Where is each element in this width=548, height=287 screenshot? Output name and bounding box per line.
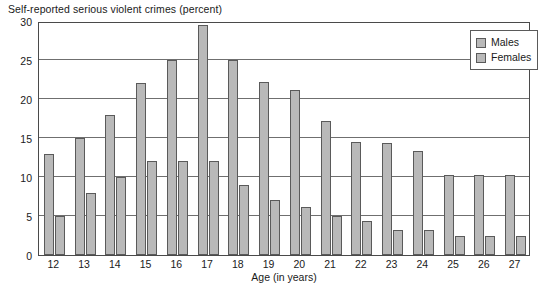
- chart-title: Self-reported serious violent crimes (pe…: [8, 3, 222, 15]
- bar-females-22: [362, 221, 372, 255]
- x-tick-label-15: 15: [131, 259, 161, 270]
- age-group-17: [198, 23, 219, 255]
- bar-females-27: [516, 236, 526, 255]
- legend-swatch-males: [476, 38, 486, 48]
- x-tick-label-18: 18: [223, 259, 253, 270]
- bar-males-22: [351, 142, 361, 255]
- age-group-12: [44, 23, 65, 255]
- legend-label-females: Females: [491, 52, 531, 63]
- x-tick-label-21: 21: [315, 259, 345, 270]
- bar-males-25: [444, 175, 454, 255]
- x-tick-label-14: 14: [100, 259, 130, 270]
- age-group-19: [259, 23, 280, 255]
- x-tick-label-20: 20: [284, 259, 314, 270]
- bar-females-23: [393, 230, 403, 255]
- y-tick-label-0: 0: [26, 251, 32, 261]
- bar-males-18: [228, 60, 238, 255]
- age-group-23: [382, 23, 403, 255]
- y-tick-label-15: 15: [20, 134, 32, 144]
- bar-females-25: [455, 236, 465, 255]
- x-tick-label-13: 13: [69, 259, 99, 270]
- bars-layer: [39, 23, 529, 255]
- bar-females-17: [209, 161, 219, 255]
- y-tick-label-10: 10: [20, 173, 32, 183]
- age-group-13: [75, 23, 96, 255]
- x-tick-label-19: 19: [254, 259, 284, 270]
- age-group-21: [321, 23, 342, 255]
- bar-females-16: [178, 161, 188, 255]
- y-tick-label-25: 25: [20, 56, 32, 66]
- bar-males-21: [321, 121, 331, 255]
- bar-males-20: [290, 90, 300, 255]
- bar-males-12: [44, 154, 54, 255]
- chart-legend: MalesFemales: [470, 30, 538, 70]
- age-group-20: [290, 23, 311, 255]
- legend-item-males: Males: [476, 35, 531, 50]
- bar-males-15: [136, 83, 146, 255]
- x-axis-title: Age (in years): [38, 271, 530, 283]
- age-group-24: [413, 23, 434, 255]
- y-tick-label-5: 5: [26, 212, 32, 222]
- age-group-18: [228, 23, 249, 255]
- bar-females-20: [301, 207, 311, 255]
- bar-females-13: [86, 193, 96, 255]
- x-tick-label-25: 25: [438, 259, 468, 270]
- bar-males-17: [198, 25, 208, 255]
- bar-males-24: [413, 151, 423, 255]
- bar-females-24: [424, 230, 434, 255]
- x-tick-label-17: 17: [192, 259, 222, 270]
- x-tick-label-26: 26: [469, 259, 499, 270]
- bar-females-14: [116, 177, 126, 255]
- y-axis: 051015202530: [0, 0, 38, 287]
- legend-swatch-females: [476, 53, 486, 63]
- bar-females-26: [485, 236, 495, 255]
- x-tick-label-23: 23: [377, 259, 407, 270]
- y-tick-label-20: 20: [20, 95, 32, 105]
- age-group-22: [351, 23, 372, 255]
- bar-females-12: [55, 216, 65, 255]
- bar-females-18: [239, 185, 249, 255]
- bar-females-19: [270, 200, 280, 255]
- bar-males-19: [259, 82, 269, 255]
- x-tick-label-12: 12: [38, 259, 68, 270]
- age-group-14: [105, 23, 126, 255]
- age-group-15: [136, 23, 157, 255]
- x-tick-label-27: 27: [500, 259, 530, 270]
- age-group-25: [444, 23, 465, 255]
- bar-males-13: [75, 138, 85, 255]
- legend-label-males: Males: [491, 37, 519, 48]
- y-tick-label-30: 30: [20, 17, 32, 27]
- plot-area: [38, 22, 530, 256]
- bar-males-16: [167, 60, 177, 255]
- bar-females-21: [332, 216, 342, 255]
- age-group-16: [167, 23, 188, 255]
- bar-females-15: [147, 161, 157, 255]
- bar-males-27: [505, 175, 515, 255]
- bar-males-26: [474, 175, 484, 255]
- bar-males-14: [105, 115, 115, 255]
- x-tick-label-22: 22: [346, 259, 376, 270]
- x-tick-label-16: 16: [161, 259, 191, 270]
- legend-item-females: Females: [476, 50, 531, 65]
- x-tick-label-24: 24: [407, 259, 437, 270]
- bar-males-23: [382, 143, 392, 255]
